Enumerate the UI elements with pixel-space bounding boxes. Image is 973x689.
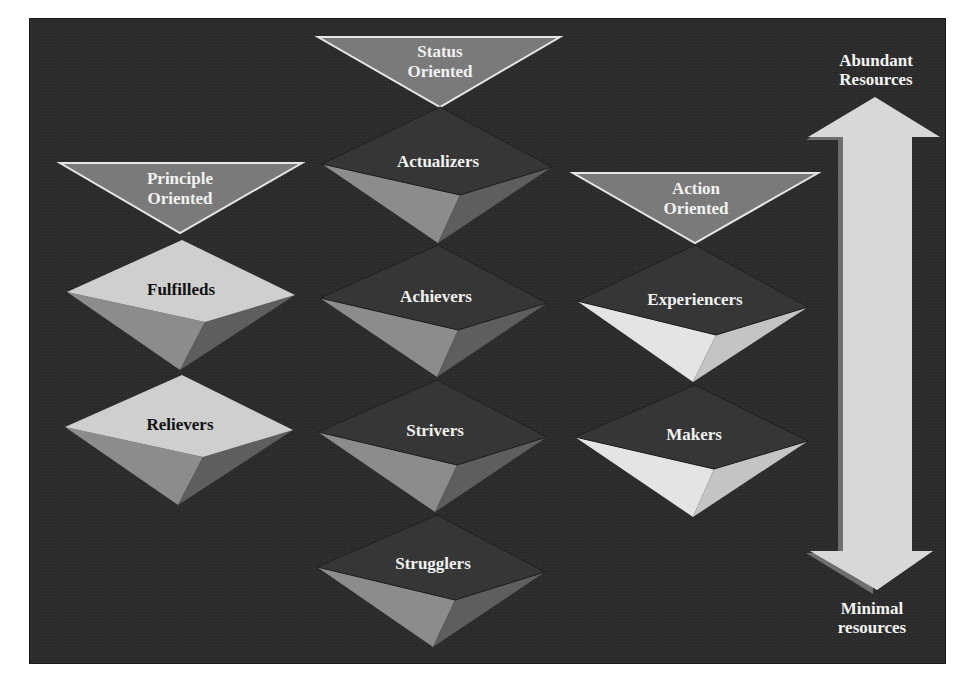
diagram-canvas (0, 0, 973, 689)
segment-label-actualizers: Actualizers (397, 152, 479, 172)
header-label-status: Status Oriented (407, 42, 472, 82)
diamond-experiencers (577, 245, 808, 382)
header-label-action: Action Oriented (663, 179, 728, 219)
axis-label-minimal-resources: Minimal resources (838, 599, 906, 637)
diamond-strugglers (317, 515, 545, 647)
segment-label-strivers: Strivers (406, 421, 464, 441)
diamond-achievers (320, 245, 547, 377)
resource-double-arrow-icon (806, 97, 940, 594)
segment-label-strugglers: Strugglers (395, 554, 471, 574)
segment-label-experiencers: Experiencers (647, 290, 742, 310)
segment-label-relievers: Relievers (146, 415, 213, 435)
diamond-makers (575, 385, 808, 517)
diamond-relievers (65, 375, 293, 505)
segment-label-achievers: Achievers (400, 287, 472, 307)
segment-label-fulfilleds: Fulfilleds (147, 280, 215, 300)
diamond-actualizers (322, 107, 552, 243)
segment-label-makers: Makers (666, 425, 722, 445)
axis-label-abundant-resources: Abundant Resources (839, 51, 913, 89)
header-label-principle: Principle Oriented (147, 169, 213, 209)
diamond-fulfilleds (67, 240, 295, 370)
diamond-strivers (318, 380, 547, 512)
